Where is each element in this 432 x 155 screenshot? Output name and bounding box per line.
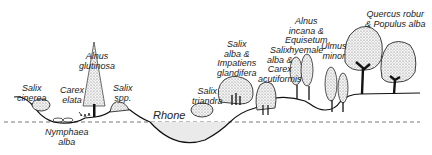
label-salix-spp: Salix spp. [113, 84, 133, 103]
lily-pad-icon [53, 118, 63, 122]
ulmus-minor-tree [325, 67, 337, 101]
salix-spp-shrub [110, 102, 129, 112]
label-carex-elata: Carex elata [60, 86, 84, 105]
lily-pad-icon [63, 118, 73, 122]
populus-alba-tree [381, 42, 416, 83]
salix-alba-carex-bush [256, 82, 276, 110]
quercus-robur-tree [345, 26, 383, 70]
label-nymphaea-alba: Nymphaea alba [45, 128, 89, 147]
label-quercus-populus: Quercus robur & Populus alba [365, 10, 426, 29]
carex-tuft-icon [84, 113, 90, 117]
label-alnus-glutinosa: Alnus glutinosa [79, 52, 115, 71]
label-salix-cinerea: Salix cinerea [17, 84, 47, 103]
label-salix-alba-impatiens: Salix alba & Impatiens glandifera [217, 40, 257, 78]
vegetation-transect-diagram: Salix cinerea Carex elata Alnus glutinos… [0, 0, 432, 155]
label-salix-triandra: Salix triandra [192, 87, 223, 106]
label-rhone: Rhone [153, 111, 185, 121]
alnus-incana-tree [301, 54, 313, 86]
label-ulmus-minor: Ulmus minor [321, 42, 347, 61]
ulmus-minor-tree [338, 73, 348, 103]
